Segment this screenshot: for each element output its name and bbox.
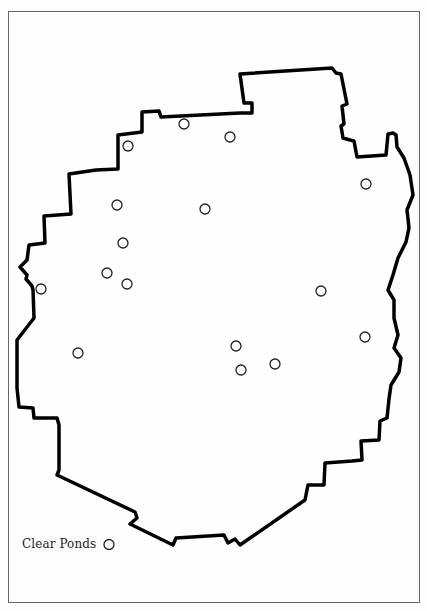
pond-marker (112, 200, 122, 210)
pond-marker (361, 179, 371, 189)
region-boundary (17, 68, 413, 545)
map-canvas (0, 0, 427, 611)
pond-marker (360, 332, 370, 342)
pond-marker (231, 341, 241, 351)
pond-circle-icon (102, 537, 116, 551)
pond-marker (200, 204, 210, 214)
pond-marker (179, 119, 189, 129)
legend-label: Clear Ponds (22, 537, 96, 551)
pond-marker (118, 238, 128, 248)
pond-marker (123, 141, 133, 151)
pond-marker (73, 348, 83, 358)
pond-marker (316, 286, 326, 296)
pond-marker (102, 268, 112, 278)
pond-markers (36, 119, 371, 375)
pond-marker (122, 279, 132, 289)
pond-marker (270, 359, 280, 369)
pond-marker (225, 132, 235, 142)
pond-marker (236, 365, 246, 375)
map-legend: Clear Ponds (22, 537, 116, 551)
pond-marker (36, 284, 46, 294)
